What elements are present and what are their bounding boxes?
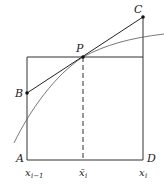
point-b [25,91,29,95]
rectangle [27,17,143,160]
svg-text:i−1: i−1 [31,172,44,180]
svg-text:i: i [85,172,87,180]
tangent-line [27,17,143,93]
function-curve [14,34,164,143]
label-c: C [134,3,143,16]
axis-label-mid: x̄ i [79,167,87,180]
midpoint-tangent-diagram: B P C A D x i−1 x̄ i x i [0,0,164,187]
label-b: B [14,87,23,100]
label-p: P [75,42,84,55]
svg-text:i: i [145,172,147,180]
label-d: D [146,152,156,165]
axis-label-left: x i−1 [25,167,44,180]
point-p [81,55,85,59]
axis-label-right: x i [139,167,147,180]
label-a: A [15,152,24,165]
